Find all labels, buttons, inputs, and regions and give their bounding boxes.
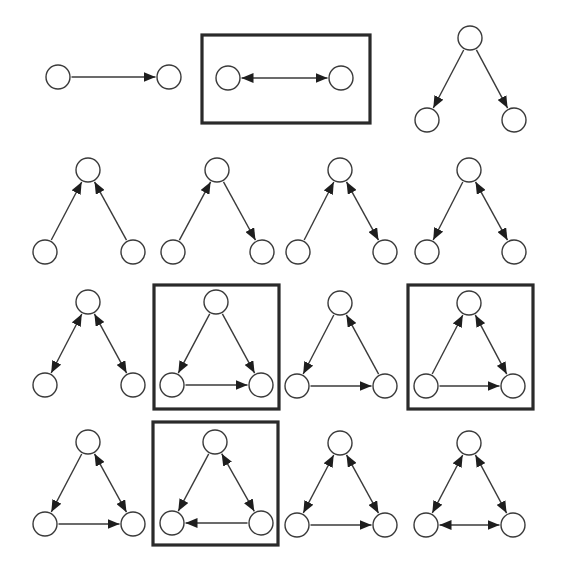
graph-node bbox=[502, 240, 526, 264]
graph-node bbox=[285, 374, 309, 398]
bidirectional-edge bbox=[94, 314, 126, 373]
motif-4 bbox=[33, 158, 145, 264]
graph-node bbox=[328, 431, 352, 455]
directed-edge bbox=[433, 50, 463, 108]
directed-edge bbox=[51, 454, 81, 512]
graph-node bbox=[46, 65, 70, 89]
directed-edge bbox=[95, 182, 127, 240]
bidirectional-edge bbox=[303, 455, 333, 513]
bidirectional-edge bbox=[475, 315, 506, 374]
graph-node bbox=[457, 291, 481, 315]
motif-7 bbox=[415, 158, 526, 264]
graph-node bbox=[373, 374, 397, 398]
directed-edge bbox=[432, 315, 463, 374]
bidirectional-edge bbox=[432, 455, 462, 513]
directed-edge bbox=[51, 182, 81, 240]
graph-node bbox=[285, 513, 309, 537]
graph-node bbox=[33, 512, 57, 536]
directed-edge bbox=[178, 314, 209, 373]
graph-node bbox=[205, 158, 229, 182]
graph-node bbox=[457, 158, 481, 182]
graph-node bbox=[458, 26, 482, 50]
motif-9-highlighted bbox=[154, 285, 279, 409]
motif-15 bbox=[414, 431, 525, 537]
graph-node bbox=[373, 513, 397, 537]
graph-node bbox=[160, 373, 184, 397]
graph-node bbox=[501, 374, 525, 398]
graph-node bbox=[216, 66, 240, 90]
directed-edge bbox=[179, 182, 210, 240]
graph-node bbox=[414, 513, 438, 537]
graph-node bbox=[121, 240, 145, 264]
graph-node bbox=[328, 291, 352, 315]
graph-node bbox=[250, 240, 274, 264]
motif-6 bbox=[286, 158, 397, 264]
graph-node bbox=[76, 290, 100, 314]
bidirectional-edge bbox=[347, 182, 379, 240]
graph-node bbox=[502, 108, 526, 132]
motif-11-highlighted bbox=[408, 285, 533, 409]
graph-node bbox=[249, 511, 273, 535]
directed-edge bbox=[303, 315, 334, 374]
bidirectional-edge bbox=[222, 454, 255, 512]
bidirectional-edge bbox=[476, 182, 508, 240]
graph-node bbox=[286, 240, 310, 264]
graph-node bbox=[121, 512, 145, 536]
motif-14 bbox=[285, 431, 397, 537]
bidirectional-edge bbox=[347, 455, 379, 513]
graph-node bbox=[328, 158, 352, 182]
graph-node bbox=[121, 373, 145, 397]
graph-node bbox=[415, 240, 439, 264]
graph-node bbox=[161, 240, 185, 264]
graph-node bbox=[249, 373, 273, 397]
graph-node bbox=[76, 158, 100, 182]
motif-8 bbox=[33, 290, 145, 397]
motif-1 bbox=[46, 65, 181, 89]
motif-10 bbox=[285, 291, 397, 398]
motif-5 bbox=[161, 158, 274, 264]
graph-node bbox=[33, 240, 57, 264]
graph-node bbox=[373, 240, 397, 264]
graph-node bbox=[76, 430, 100, 454]
graph-node bbox=[157, 65, 181, 89]
graph-node bbox=[501, 513, 525, 537]
motif-2-highlighted bbox=[202, 35, 370, 123]
motif-12 bbox=[33, 430, 145, 536]
graph-node bbox=[414, 374, 438, 398]
network-motifs-diagram bbox=[0, 0, 562, 569]
graph-node bbox=[415, 108, 439, 132]
directed-edge bbox=[222, 314, 254, 373]
bidirectional-edge bbox=[475, 455, 506, 513]
graph-node bbox=[33, 373, 57, 397]
directed-edge bbox=[476, 50, 507, 108]
bidirectional-edge bbox=[51, 314, 82, 373]
motif-3 bbox=[415, 26, 526, 132]
motif-layer bbox=[33, 26, 533, 545]
graph-node bbox=[160, 511, 184, 535]
directed-edge bbox=[224, 182, 256, 240]
bidirectional-edge bbox=[95, 454, 127, 512]
directed-edge bbox=[433, 182, 463, 240]
graph-node bbox=[203, 430, 227, 454]
directed-edge bbox=[178, 454, 208, 511]
directed-edge bbox=[304, 182, 334, 240]
graph-node bbox=[457, 431, 481, 455]
directed-edge bbox=[346, 315, 378, 374]
graph-node bbox=[329, 66, 353, 90]
graph-node bbox=[204, 290, 228, 314]
motif-13-highlighted bbox=[153, 422, 278, 545]
